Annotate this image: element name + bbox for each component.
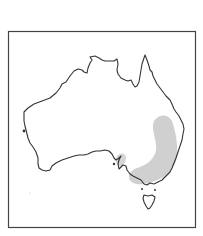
island-bass-strait-west xyxy=(141,188,143,190)
distribution-range-sa-gulf xyxy=(116,154,126,167)
distribution-map xyxy=(0,0,203,236)
map-speck xyxy=(29,192,30,193)
island-kangaroo xyxy=(113,163,115,165)
island-bass-strait-east xyxy=(154,189,156,191)
distribution-range xyxy=(129,116,177,185)
island-west-coast xyxy=(23,130,26,133)
tasmania-coastline xyxy=(143,195,155,209)
